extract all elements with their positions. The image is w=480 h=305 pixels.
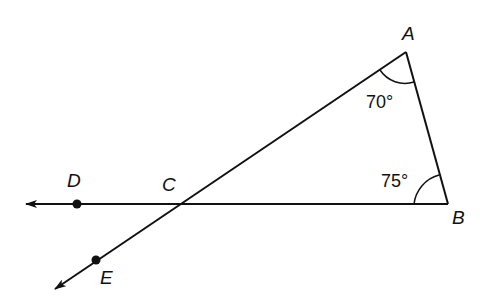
geometry-diagram: A B C D E 70° 75° — [0, 0, 480, 305]
angle-label-b: 75° — [381, 171, 408, 191]
label-b: B — [452, 207, 465, 228]
angle-arc-b — [414, 175, 439, 204]
point-e — [92, 256, 101, 265]
label-a: A — [401, 23, 415, 44]
point-d — [73, 200, 82, 209]
label-c: C — [162, 174, 176, 195]
line-ae — [55, 52, 406, 289]
label-d: D — [67, 170, 81, 191]
angle-arc-a — [380, 70, 414, 83]
label-e: E — [100, 267, 113, 288]
angle-label-a: 70° — [366, 92, 393, 112]
